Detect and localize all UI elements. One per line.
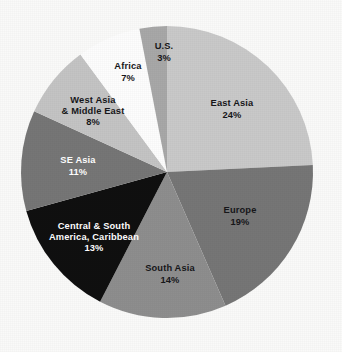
pie-slice-name-text: Africa <box>114 62 142 72</box>
pie-slice-name-text: West Asia <box>70 95 116 105</box>
pie-chart-figure: East Asia24%Europe19%South Asia14%Centra… <box>0 0 342 352</box>
pie-chart-svg: East Asia24%Europe19%South Asia14%Centra… <box>0 0 342 352</box>
pie-slice-name-text: SE Asia <box>60 156 96 166</box>
pie-slice-value-text: 14% <box>160 275 180 285</box>
pie-slice-value-text: 3% <box>157 53 171 63</box>
pie-slice-value-text: 24% <box>222 110 242 120</box>
pie-slice-value-text: 7% <box>121 73 135 83</box>
pie-slice-label: U.S.3% <box>155 42 174 63</box>
pie-slice-value-text: 19% <box>230 217 250 227</box>
pie-slice-value-text: 8% <box>86 118 100 128</box>
pie-slice-name-text: South Asia <box>145 264 195 274</box>
pie-slice-name-text: & Middle East <box>62 106 125 116</box>
pie-slice-name-text: Europe <box>224 206 257 216</box>
pie-slice-name-text: Central & South <box>58 221 131 231</box>
pie-slice-name-text: U.S. <box>155 42 174 52</box>
pie-slice-value-text: 13% <box>84 244 104 254</box>
pie-slice-value-text: 11% <box>69 167 88 177</box>
pie-slice-name-text: East Asia <box>211 99 255 109</box>
pie-slice-name-text: America, Caribbean <box>49 232 139 242</box>
